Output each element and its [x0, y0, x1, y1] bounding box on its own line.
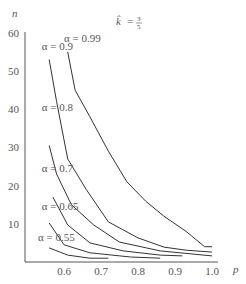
curve-label: α = 0.65 — [42, 200, 79, 212]
title-denominator: 5 — [137, 23, 141, 31]
y-tick-label: 50 — [8, 65, 20, 77]
curve-series — [68, 52, 212, 247]
curve-series — [49, 60, 212, 253]
curve-label: α = 0.7 — [42, 162, 74, 174]
curve-label: α = 0.8 — [42, 101, 74, 113]
y-tick-label: 10 — [8, 218, 20, 230]
x-tick-labels: 0.60.70.80.91.0 — [57, 265, 219, 277]
x-tick-label: 0.7 — [94, 265, 108, 277]
x-tick-label: 0.8 — [131, 265, 145, 277]
title: k̂ = 3 5 — [116, 15, 142, 31]
curves — [49, 52, 212, 258]
x-axis-label: p — [232, 263, 239, 275]
x-tick-label: 0.6 — [57, 265, 71, 277]
x-tick-label: 0.9 — [168, 265, 182, 277]
title-lhs: k̂ — [116, 15, 122, 27]
y-tick-label: 60 — [8, 27, 20, 39]
curve-label: α = 0.9 — [42, 40, 74, 52]
title-numerator: 3 — [137, 15, 141, 23]
title-equals: = — [127, 15, 133, 27]
y-tick-labels: 102030405060 — [8, 27, 20, 230]
x-tick-label: 1.0 — [205, 265, 219, 277]
y-tick-label: 40 — [8, 103, 20, 115]
y-axis-label: n — [12, 7, 18, 19]
y-tick-label: 20 — [8, 180, 20, 192]
chart: k̂ = 3 5 n p 102030405060 0.60.70.80.91.… — [0, 0, 246, 284]
y-tick-label: 30 — [8, 141, 20, 153]
curve-label: α = 0.55 — [38, 231, 75, 243]
